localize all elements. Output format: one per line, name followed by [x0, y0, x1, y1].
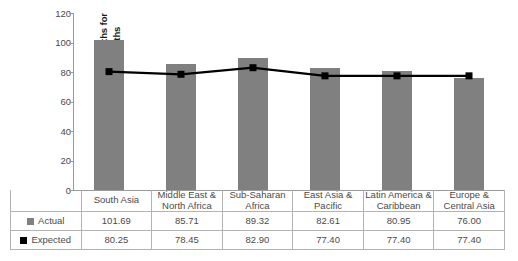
expected-marker-3: [322, 72, 329, 79]
hdr-line1-3: East Asia &: [304, 189, 353, 200]
hdr-line1-4: Latin America &: [365, 189, 432, 200]
table-header-blank-cell: [11, 190, 82, 212]
expected-marker-1: [178, 71, 185, 78]
hdr-line1-0: South Asia: [94, 194, 139, 205]
expected-marker-2: [250, 64, 257, 71]
legend-label-expected: Expected: [31, 234, 71, 245]
legend-item-actual: Actual: [11, 212, 82, 231]
y-tick-label-100: 100: [45, 38, 71, 48]
expected-marker-0: [106, 68, 113, 75]
y-tick-label-80: 80: [45, 68, 71, 78]
expected-line-path: [109, 68, 469, 76]
data-table: South Asia Middle East & North Africa Su…: [10, 190, 505, 246]
y-tick-label-20: 20: [45, 156, 71, 166]
table-header-south-asia: South Asia: [81, 190, 152, 212]
hdr-line2-2: Africa: [245, 200, 269, 211]
table-header-sub-saharan-africa: Sub-Saharan Africa: [222, 190, 293, 212]
hdr-line1-1: Middle East &: [158, 189, 217, 200]
cell-actual-sub-saharan-africa: 89.32: [222, 212, 293, 231]
hdr-line2-1: North Africa: [162, 200, 212, 211]
y-axis-title: Number of female (age 0–5) deaths for ev…: [0, 0, 46, 195]
table-header-east-asia-pacific: East Asia & Pacific: [293, 190, 364, 212]
hdr-line2-3: Pacific: [314, 200, 342, 211]
line-series-expected: [73, 13, 505, 190]
hdr-line2-4: Caribbean: [377, 200, 421, 211]
cell-expected-sub-saharan-africa: 82.90: [222, 231, 293, 250]
cell-expected-south-asia: 80.25: [81, 231, 152, 250]
plot-area: [73, 13, 505, 190]
hdr-line2-5: Central Asia: [444, 200, 495, 211]
cell-expected-middle-east-north-africa: 78.45: [152, 231, 223, 250]
cell-actual-east-asia-pacific: 82.61: [293, 212, 364, 231]
legend-swatch-actual-icon: [27, 218, 34, 225]
y-axis-tick-labels: 120 100 80 60 40 20 0: [44, 0, 71, 195]
table-row-expected: Expected 80.25 78.45 82.90 77.40 77.40 7…: [11, 231, 505, 250]
y-tick-label-120: 120: [45, 9, 71, 19]
hdr-line1-2: Sub-Saharan: [229, 189, 285, 200]
cell-actual-south-asia: 101.69: [81, 212, 152, 231]
cell-expected-europe-central-asia: 77.40: [434, 231, 505, 250]
table-row-actual: Actual 101.69 85.71 89.32 82.61 80.95 76…: [11, 212, 505, 231]
table-header-europe-central-asia: Europe & Central Asia: [434, 190, 505, 212]
cell-actual-europe-central-asia: 76.00: [434, 212, 505, 231]
expected-marker-4: [394, 72, 401, 79]
table-header-row: South Asia Middle East & North Africa Su…: [11, 190, 505, 212]
legend-item-expected: Expected: [11, 231, 82, 250]
cell-actual-middle-east-north-africa: 85.71: [152, 212, 223, 231]
hdr-line1-5: Europe &: [449, 189, 489, 200]
cell-actual-latin-america-caribbean: 80.95: [363, 212, 434, 231]
table-header-latin-america-caribbean: Latin America & Caribbean: [363, 190, 434, 212]
chart-figure: Number of female (age 0–5) deaths for ev…: [0, 0, 518, 261]
cell-expected-east-asia-pacific: 77.40: [293, 231, 364, 250]
table-header-middle-east-north-africa: Middle East & North Africa: [152, 190, 223, 212]
expected-marker-5: [466, 72, 473, 79]
y-tick-label-60: 60: [45, 97, 71, 107]
y-tick-label-40: 40: [45, 127, 71, 137]
legend-swatch-expected-icon: [20, 237, 27, 244]
legend-label-actual: Actual: [38, 215, 64, 226]
cell-expected-latin-america-caribbean: 77.40: [363, 231, 434, 250]
